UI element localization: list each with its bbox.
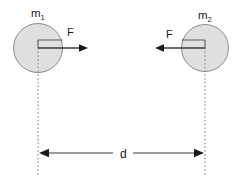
mass-2-label-subscript: 2 (208, 15, 212, 24)
mass-2-label-symbol: m (198, 9, 208, 21)
physics-force-diagram: m1 m2 F F d (0, 0, 243, 182)
mass-2-label: m2 (198, 9, 212, 24)
mass-1-label-subscript: 1 (41, 13, 45, 22)
diagram-canvas: m1 m2 F F d (0, 0, 243, 182)
force-2-arrowhead (155, 44, 164, 52)
distance-right-arrowhead (194, 149, 204, 157)
force-2-label: F (166, 28, 173, 40)
distance-left-arrowhead (39, 149, 49, 157)
force-1-label: F (67, 26, 74, 38)
mass-1-label-symbol: m (31, 7, 41, 19)
distance-label: d (120, 147, 127, 161)
mass-1-label: m1 (31, 7, 45, 22)
force-1-arrowhead (79, 44, 88, 52)
